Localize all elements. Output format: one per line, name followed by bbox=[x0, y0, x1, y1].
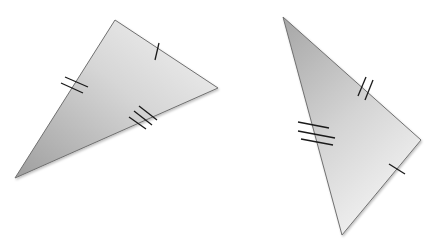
left-triangle bbox=[15, 20, 218, 178]
right-triangle bbox=[283, 17, 421, 235]
congruent-triangles-diagram bbox=[0, 0, 437, 249]
